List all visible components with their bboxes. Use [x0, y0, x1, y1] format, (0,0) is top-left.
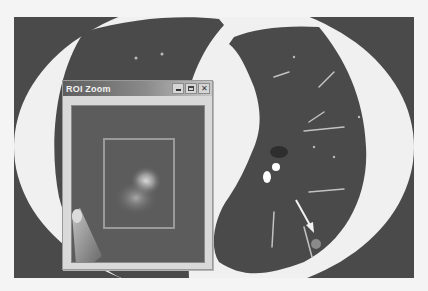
- minimize-button[interactable]: [172, 83, 184, 94]
- cropped-caption-text: [0, 0, 428, 6]
- roi-selection-box[interactable]: [103, 138, 175, 229]
- maximize-button[interactable]: [185, 83, 197, 94]
- maximize-icon: [188, 86, 194, 91]
- roi-zoom-view[interactable]: [71, 105, 205, 263]
- close-icon: ✕: [201, 84, 208, 93]
- roi-zoom-window[interactable]: ROI Zoom ✕: [62, 80, 213, 270]
- roi-window-titlebar[interactable]: ROI Zoom ✕: [63, 81, 212, 96]
- window-controls: ✕: [172, 83, 212, 94]
- close-button[interactable]: ✕: [198, 83, 210, 94]
- minimize-icon: [176, 89, 181, 91]
- roi-window-title: ROI Zoom: [63, 84, 111, 94]
